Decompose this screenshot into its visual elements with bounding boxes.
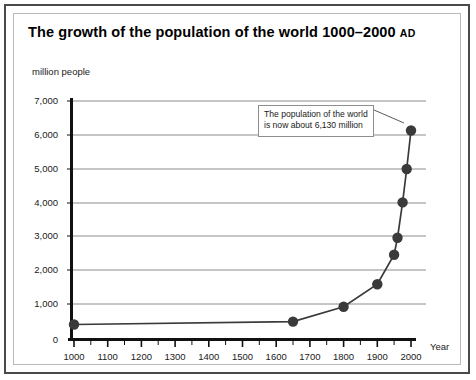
xtick-label-1900: 1900 <box>360 351 394 362</box>
xtick-label-1200: 1200 <box>124 351 158 362</box>
xtick-label-1700: 1700 <box>293 351 327 362</box>
data-point <box>372 279 382 289</box>
data-point <box>406 125 416 135</box>
data-point <box>288 316 298 326</box>
annotation-leader-line <box>374 110 404 123</box>
xtick-label-1600: 1600 <box>259 351 293 362</box>
ytick-label-5000: 5,000 <box>18 163 58 174</box>
ytick-label-0: 0 <box>26 334 58 345</box>
ytick-label-3000: 3,000 <box>18 230 58 241</box>
ytick-label-6000: 6,000 <box>18 129 58 140</box>
xtick-label-2000: 2000 <box>394 351 428 362</box>
xtick-label-1000: 1000 <box>57 351 91 362</box>
chart-plot-area <box>6 6 472 376</box>
annotation-line-1: The population of the world <box>264 109 368 120</box>
data-point <box>338 302 348 312</box>
xtick-label-1300: 1300 <box>158 351 192 362</box>
x-axis-ticks <box>74 339 411 347</box>
xtick-label-1800: 1800 <box>327 351 361 362</box>
population-data-points <box>69 125 416 329</box>
data-point <box>392 233 402 243</box>
data-point <box>397 197 407 207</box>
population-series-line <box>74 131 411 325</box>
annotation-line-2: is now about 6,130 million <box>264 120 368 131</box>
ytick-label-2000: 2,000 <box>18 264 58 275</box>
data-point <box>69 319 79 329</box>
xtick-label-1500: 1500 <box>226 351 260 362</box>
xtick-label-1100: 1100 <box>91 351 125 362</box>
ytick-label-4000: 4,000 <box>18 197 58 208</box>
population-annotation-callout: The population of the world is now about… <box>258 105 374 137</box>
xtick-label-1400: 1400 <box>192 351 226 362</box>
figure-outer-frame: The growth of the population of the worl… <box>4 4 470 374</box>
data-point <box>402 164 412 174</box>
ytick-label-1000: 1,000 <box>18 298 58 309</box>
data-point <box>389 250 399 260</box>
ytick-label-7000: 7,000 <box>18 95 58 106</box>
